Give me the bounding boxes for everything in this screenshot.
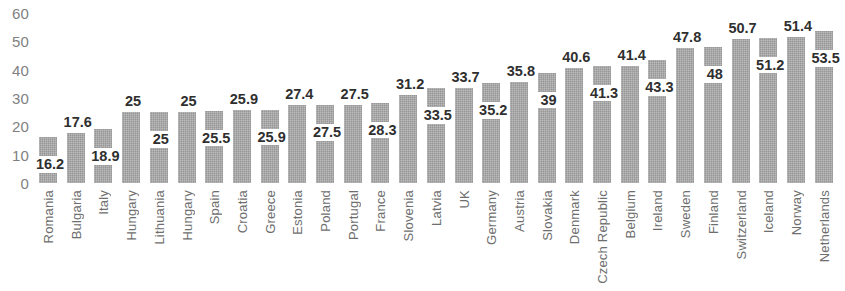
bar[interactable] <box>261 110 279 183</box>
x-axis-category-label: Belgium <box>624 190 637 238</box>
bar[interactable] <box>399 95 417 183</box>
bar-value-label: 53.5 <box>807 50 845 67</box>
bar-group: 41.4Belgium <box>616 0 644 291</box>
bar-group: 53.5Netherlands <box>810 0 838 291</box>
bar-group: 25.9Greece <box>256 0 284 291</box>
x-axis-category-label: Slovenia <box>402 190 415 241</box>
x-axis-category-label: Bulgaria <box>70 190 83 239</box>
bar-group: 27.4Estonia <box>283 0 311 291</box>
bar[interactable] <box>510 82 528 183</box>
x-axis-category-label: Hungary <box>181 190 194 241</box>
bar-group: 16.2Romania <box>34 0 62 291</box>
bar-group: 31.2Slovenia <box>394 0 422 291</box>
x-axis-category-label: Latvia <box>430 190 443 226</box>
bar[interactable] <box>593 66 611 183</box>
bar-group: 33.7UK <box>450 0 478 291</box>
bar[interactable] <box>316 105 334 183</box>
bar-group: 41.3Czech Republic <box>588 0 616 291</box>
bar-group: 27.5Poland <box>311 0 339 291</box>
bar-group: 18.9Italy <box>89 0 117 291</box>
x-axis-category-label: Portugal <box>347 190 360 240</box>
bar[interactable] <box>122 112 140 183</box>
x-axis-category-label: Iceland <box>762 190 775 233</box>
x-axis-category-label: Germany <box>485 190 498 245</box>
x-axis-category-label: Hungary <box>125 190 138 241</box>
x-axis-category-label: Poland <box>319 190 332 232</box>
bar-group: 50.7Switzerland <box>727 0 755 291</box>
bar[interactable] <box>371 103 389 183</box>
bar[interactable] <box>565 68 583 183</box>
bar-group: 17.6Bulgaria <box>62 0 90 291</box>
bar[interactable] <box>205 111 223 183</box>
bar[interactable] <box>787 37 805 183</box>
x-axis-category-label: Greece <box>264 190 277 234</box>
bar[interactable] <box>482 83 500 183</box>
bar[interactable] <box>67 133 85 183</box>
x-axis-category-label: Norway <box>790 190 803 235</box>
x-axis-category-label: Romania <box>42 190 55 243</box>
bar-group: 27.5Portugal <box>339 0 367 291</box>
x-axis-category-label: Estonia <box>291 190 304 235</box>
bar[interactable] <box>288 105 306 183</box>
bar-group: 25Lithuania <box>145 0 173 291</box>
bar[interactable] <box>427 88 445 183</box>
x-axis-category-label: Finland <box>707 190 720 234</box>
x-axis-category-label: Denmark <box>568 190 581 244</box>
bar-group: 35.2Germany <box>477 0 505 291</box>
x-axis-category-label: Austria <box>513 190 526 232</box>
bar-group: 47.8Sweden <box>671 0 699 291</box>
bar[interactable] <box>621 66 639 183</box>
x-axis-category-label: Slovakia <box>541 190 554 241</box>
bar-group: 35.8Austria <box>505 0 533 291</box>
x-axis-category-label: Spain <box>208 190 221 224</box>
bar[interactable] <box>676 48 694 183</box>
x-axis-category-label: Switzerland <box>735 190 748 259</box>
x-axis-category-label: Lithuania <box>153 190 166 245</box>
bar-group: 28.3France <box>366 0 394 291</box>
x-axis-category-label: Czech Republic <box>596 190 609 284</box>
x-axis-category-label: Italy <box>97 190 110 215</box>
x-axis-category-label: Croatia <box>236 190 249 233</box>
bar-group: 51.4Norway <box>782 0 810 291</box>
bar[interactable] <box>455 88 473 183</box>
bar[interactable] <box>732 39 750 183</box>
bar[interactable] <box>538 73 556 184</box>
bar-group: 51.2Iceland <box>754 0 782 291</box>
x-axis-category-label: Sweden <box>679 190 692 238</box>
bar[interactable] <box>344 105 362 183</box>
bar-group: 25.5Spain <box>200 0 228 291</box>
bar-group: 40.6Denmark <box>560 0 588 291</box>
x-axis-category-label: Ireland <box>651 190 664 231</box>
x-axis-category-label: Netherlands <box>818 190 831 262</box>
x-axis-category-label: France <box>374 190 387 232</box>
bar[interactable] <box>178 112 196 183</box>
bar[interactable] <box>233 110 251 183</box>
x-axis-category-label: UK <box>458 190 471 208</box>
bar-group: 33.5Latvia <box>422 0 450 291</box>
bar-group: 39Slovakia <box>533 0 561 291</box>
bar-group: 25.9Croatia <box>228 0 256 291</box>
bar-group: 48Finland <box>699 0 727 291</box>
